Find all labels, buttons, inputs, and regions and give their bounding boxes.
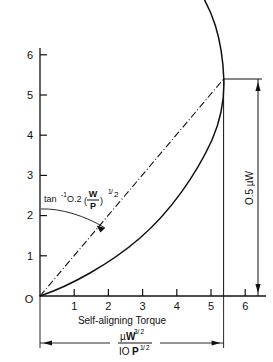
y-tick-label-6: 6 [27, 49, 33, 61]
arrowhead-right [212, 340, 221, 345]
formula-denominator-io: IO [119, 346, 130, 357]
y-tick-label-2: 2 [27, 209, 33, 221]
x-axis-title: Self-aligning Torque [78, 315, 167, 326]
vertical-dimension-label: O.5 µW [244, 170, 255, 205]
x-tick-label-5: 5 [208, 300, 214, 312]
x-axis-formula: µ W 3 / 2 IO P 1 / 2 [118, 328, 152, 357]
formula-denominator-exp-den: 2 [146, 344, 150, 351]
annot-coefficient: O.2 [67, 194, 82, 204]
annot-power-slash: / [111, 188, 113, 195]
formula-numerator-slash: / [138, 328, 140, 335]
x-tick-label-4: 4 [174, 300, 180, 312]
annotation-leader-curve [41, 209, 105, 228]
origin-label: O [25, 293, 34, 305]
y-axis-tick-labels: 1 2 3 4 5 6 [27, 49, 33, 262]
annot-fraction-numerator: W [89, 189, 98, 199]
x-axis-tick-labels: 1 2 3 4 5 6 [71, 300, 248, 312]
x-tick-label-6: 6 [242, 300, 248, 312]
annot-tan: tan [44, 194, 57, 204]
y-tick-label-3: 3 [27, 169, 33, 181]
axes-group [40, 48, 266, 296]
annot-paren-open: ( [84, 196, 87, 206]
arrowhead-left [43, 340, 52, 345]
annotation-leader-arrowhead [97, 226, 106, 233]
vertical-dimension-group [255, 79, 260, 296]
tangent-line [40, 79, 224, 296]
formula-numerator-exp-den: 2 [141, 328, 145, 335]
formula-denominator-p: P [132, 346, 139, 357]
y-tick-label-5: 5 [27, 89, 33, 101]
slope-annotation-group: tan -1 O.2 ( W P ) 1 / 2 [41, 188, 119, 233]
x-tick-label-1: 1 [71, 300, 77, 312]
annot-paren-close: ) [100, 196, 103, 206]
x-axis-ticks [74, 289, 245, 296]
annot-power-den: 2 [114, 190, 119, 199]
arrowhead-down [255, 284, 260, 293]
figure-container: 1 2 3 4 5 6 1 2 3 4 5 6 O [0, 0, 273, 362]
characteristic-curve [40, 0, 224, 296]
arrowhead-up [255, 82, 260, 91]
y-axis-ticks [40, 55, 47, 256]
y-tick-label-1: 1 [27, 250, 33, 262]
formula-denominator-slash: / [143, 344, 145, 351]
chart-svg: 1 2 3 4 5 6 1 2 3 4 5 6 O [0, 0, 273, 362]
annot-fraction-denominator: P [90, 201, 96, 211]
x-tick-label-3: 3 [140, 300, 146, 312]
y-tick-label-4: 4 [27, 129, 33, 141]
x-tick-label-2: 2 [105, 300, 111, 312]
